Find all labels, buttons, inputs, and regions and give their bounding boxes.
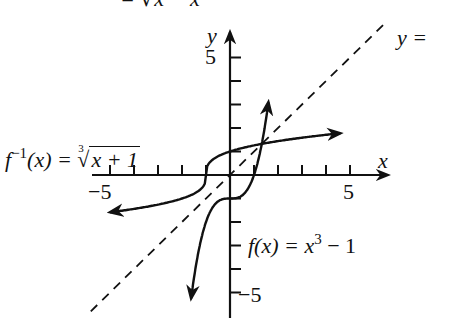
identity-line-label: y = [397,27,427,49]
y-tick-label-neg5: −5 [238,284,261,306]
x-tick-label-neg5: −5 [88,181,111,203]
function-label: f(x) = x3 − 1 [248,232,356,257]
x-tick-label-5: 5 [343,181,354,203]
root-index: 3 [78,143,84,154]
radicand: x + 1 [89,146,140,172]
cube-root: 3√x + 1 [77,149,140,171]
f-superscript: 3 [314,231,322,247]
f-suffix: − 1 [322,233,356,258]
f-prefix: f(x) = x [248,233,314,258]
finv-superscript: −1 [11,145,27,161]
finv-mid: (x) = [27,147,77,172]
inverse-function-label: f−1(x) = 3√x + 1 [5,146,140,171]
top-cropped-formula: = ∛x − x [120,0,200,10]
graph-figure: = ∛x − x y x 5 −5 −5 5 y = f−1(x) = 3√x … [0,0,451,325]
axes [92,32,388,318]
f-inverse-curve [110,133,340,212]
x-axis-label: x [378,150,388,172]
y-tick-label-5: 5 [205,46,216,68]
